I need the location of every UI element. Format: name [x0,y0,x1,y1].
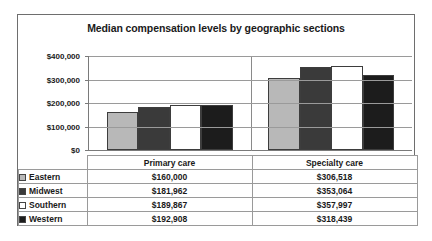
table-column-header: Primary care [87,156,252,170]
legend-entry: Midwest [19,184,88,198]
legend-entry: Southern [19,198,88,212]
table-cell-value: $318,439 [252,212,417,226]
y-tickmark [85,127,89,128]
gridline [89,56,412,57]
y-tickmark [85,80,89,81]
gridline [89,127,412,128]
legend-label: Southern [29,200,66,210]
table-row: Western$192,908$318,439 [19,212,418,226]
y-tickmark [85,56,89,57]
data-table: Primary careSpecialty care Eastern$160,0… [18,155,418,226]
y-tick-label: $0 [22,146,80,155]
table-body: Eastern$160,000$306,518Midwest$181,962$3… [19,170,418,226]
bar [170,105,202,150]
legend-swatch-icon [19,174,26,181]
bar [268,78,300,150]
chart-title: Median compensation levels by geographic… [17,22,415,34]
table-row: Eastern$160,000$306,518 [19,170,418,184]
table-column-header: Specialty care [252,156,417,170]
table-header-row: Primary careSpecialty care [19,156,418,170]
bar [331,66,363,150]
legend-swatch-icon [19,202,26,209]
bar [107,112,139,150]
legend-swatch-icon [19,188,26,195]
bar [138,107,170,150]
legend-label: Western [29,214,62,224]
y-tick-label: $400,000 [22,52,80,61]
legend-entry: Eastern [19,170,88,184]
gridline [89,103,412,104]
table-row: Southern$189,867$357,997 [19,198,418,212]
table-cell-value: $306,518 [252,170,417,184]
y-tick-label: $100,000 [22,122,80,131]
plot-region: $400,000$300,000$200,000$100,000$0 [22,50,412,155]
plot-area [88,56,412,151]
legend-entry: Western [19,212,88,226]
chart-screenshot: Median compensation levels by geographic… [0,0,432,241]
table-cell-value: $353,064 [252,184,417,198]
y-tick-label: $200,000 [22,99,80,108]
table-header: Primary careSpecialty care [19,156,418,170]
table-cell-value: $357,997 [252,198,417,212]
table-cell-value: $181,962 [87,184,252,198]
bar [363,75,395,150]
y-tickmark [85,150,89,151]
table-corner-cell [19,156,88,170]
table-cell-value: $160,000 [87,170,252,184]
legend-swatch-icon [19,216,26,223]
y-tickmark [85,103,89,104]
gridline [89,80,412,81]
legend-label: Eastern [29,172,60,182]
y-axis: $400,000$300,000$200,000$100,000$0 [22,50,84,155]
table-cell-value: $192,908 [87,212,252,226]
y-tick-label: $300,000 [22,75,80,84]
table-row: Midwest$181,962$353,064 [19,184,418,198]
table-cell-value: $189,867 [87,198,252,212]
legend-label: Midwest [29,186,63,196]
